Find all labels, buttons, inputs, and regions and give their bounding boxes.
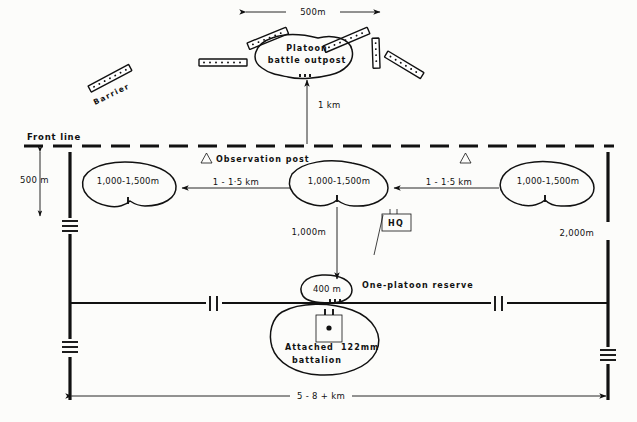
observation-post-left: Observation post xyxy=(201,153,310,164)
attached-label-line2: battalion xyxy=(292,356,342,365)
outpost-depth-dimension: 1 km xyxy=(307,80,341,144)
platoon-size-ticks xyxy=(300,74,310,77)
front-line-label: Front line xyxy=(27,132,81,142)
reserve-depth-label: 1,000m xyxy=(292,227,326,237)
outpost-label-line2: battle outpost xyxy=(268,56,347,65)
artillery-battery-symbol xyxy=(316,309,342,342)
barrier-left-horizontal xyxy=(199,59,247,66)
barrier-right-vertical xyxy=(372,38,380,68)
observation-post-label: Observation post xyxy=(216,155,310,164)
barrier-center-right xyxy=(323,27,370,52)
gap-right-dimension: 1 - 1·5 km xyxy=(394,177,499,188)
left-boundary-line xyxy=(62,152,78,400)
tactical-diagram-canvas: 500m Barrier xyxy=(0,0,637,422)
attached-label-line1: Attached xyxy=(285,343,334,352)
outpost-label-line1: Platoon xyxy=(286,44,328,53)
right-boundary-marker-lower xyxy=(600,350,616,360)
front-line: Front line xyxy=(24,132,614,146)
outpost-width-dimension: 500m xyxy=(246,7,380,17)
outpost-depth-label: 1 km xyxy=(318,100,341,110)
platoon-center-size-label: 1,000-1,500m xyxy=(308,176,370,186)
rear-boundary-marker-right xyxy=(495,296,502,311)
reserve-label: One-platoon reserve xyxy=(362,281,474,290)
gap-left-dimension: 1 - 1·5 km xyxy=(182,177,290,188)
hq-flag: HQ xyxy=(374,209,411,255)
left-boundary-marker-upper xyxy=(62,221,78,231)
observation-post-right xyxy=(460,153,471,163)
one-platoon-reserve: 400 m One-platoon reserve xyxy=(301,275,474,303)
rear-boundary-line xyxy=(70,296,608,311)
hq-label: HQ xyxy=(388,219,404,228)
outpost-width-label: 500m xyxy=(300,7,326,17)
barrier-far-right xyxy=(384,51,424,79)
platoon-left-size-label: 1,000-1,500m xyxy=(97,176,159,186)
platoon-strongpoint-right: 1,000-1,500m xyxy=(500,162,594,207)
reserve-size-label: 400 m xyxy=(313,284,341,294)
right-boundary-line: 2,000m xyxy=(560,152,616,400)
attached-artillery-battalion: Attached 122mm battalion xyxy=(270,304,379,375)
platoon-right-size-label: 1,000-1,500m xyxy=(517,176,579,186)
gap-left-label: 1 - 1·5 km xyxy=(213,177,259,187)
reserve-depth-dimension: 1,000m xyxy=(292,207,337,279)
gap-right-label: 1 - 1·5 km xyxy=(426,177,472,187)
platoon-strongpoint-center: 1,000-1,500m xyxy=(289,161,388,206)
frontage-dimension: 5 - 8 + km xyxy=(72,391,606,401)
frontage-label: 5 - 8 + km xyxy=(297,391,345,401)
rear-boundary-marker-left xyxy=(210,296,217,311)
front-setback-label: 500 m xyxy=(20,175,49,185)
artillery-caliber-label: 122mm xyxy=(341,343,379,352)
front-setback-dimension: 500 m xyxy=(20,152,49,216)
flank-depth-label: 2,000m xyxy=(560,228,594,238)
barrier-upper-left xyxy=(247,27,289,49)
platoon-strongpoint-left: 1,000-1,500m xyxy=(83,162,176,207)
left-boundary-marker-lower xyxy=(62,342,78,352)
